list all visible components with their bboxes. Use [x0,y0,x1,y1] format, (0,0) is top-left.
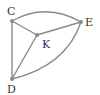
edge-c-k [12,21,37,35]
node-k [35,33,39,37]
node-d [10,77,14,81]
node-c [10,19,14,23]
edge-c-e [12,12,81,22]
node-e [79,20,83,24]
label-d: D [7,83,16,95]
edge-k-e [37,22,81,35]
label-c: C [7,5,15,18]
label-e: E [85,16,93,29]
graph-diagram: C E K D [0,0,100,95]
label-k: K [42,38,51,51]
